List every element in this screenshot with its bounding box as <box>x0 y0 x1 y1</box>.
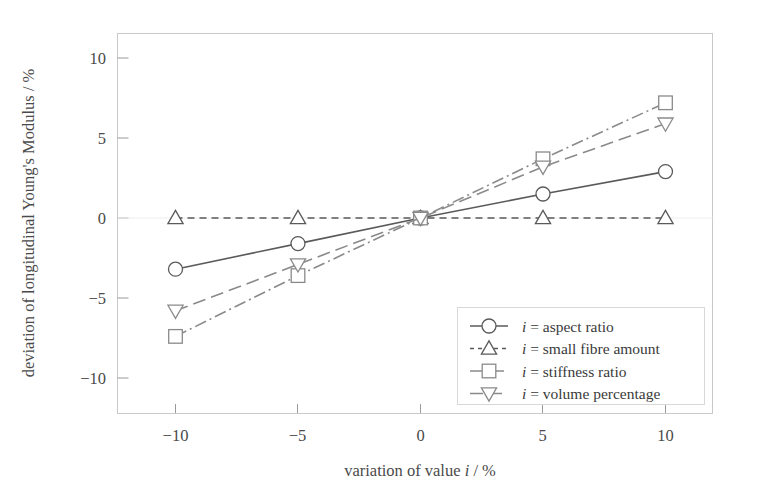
circle-marker <box>536 187 550 201</box>
triangle-up-marker <box>290 210 305 223</box>
series-layer <box>168 96 673 343</box>
chart-figure: 10 5 0 −5 −10 −10 −5 0 5 10 deviation of… <box>0 0 762 495</box>
legend-label-text: = volume percentage <box>526 385 660 402</box>
square-marker <box>659 96 673 110</box>
legend-item-2[interactable]: i = stiffness ratio <box>470 363 627 380</box>
y-axis-title: deviation of longitudinal Young's Modulu… <box>19 68 38 377</box>
legend-label-text: = small fibre amount <box>526 340 660 357</box>
square-marker <box>482 364 496 378</box>
legend-label: i = aspect ratio <box>522 318 614 335</box>
legend-label-text: = aspect ratio <box>526 318 614 335</box>
triangle-down-marker <box>168 305 183 318</box>
line-chart: 10 5 0 −5 −10 −10 −5 0 5 10 deviation of… <box>0 0 762 495</box>
x-tick-label: 10 <box>657 426 674 445</box>
x-tick-label: −10 <box>163 426 189 445</box>
triangle-up-marker <box>535 210 550 223</box>
triangle-up-marker <box>168 210 183 223</box>
y-tick-label: 0 <box>98 209 106 228</box>
triangle-down-marker <box>535 161 550 174</box>
y-tick-label: 5 <box>98 129 106 148</box>
x-axis-title-pre: variation of value <box>344 461 465 480</box>
x-tick-label: 5 <box>538 426 546 445</box>
y-tick-label: −10 <box>80 369 106 388</box>
square-marker <box>169 330 183 344</box>
y-tick-label: −5 <box>88 289 106 308</box>
x-axis-ticks <box>176 404 666 413</box>
legend-label: i = volume percentage <box>522 385 660 402</box>
y-tick-label: 10 <box>90 49 107 68</box>
circle-marker <box>482 319 496 333</box>
legend-item-0[interactable]: i = aspect ratio <box>470 318 614 335</box>
triangle-down-marker <box>658 118 673 131</box>
legend-label-text: = stiffness ratio <box>526 363 626 380</box>
x-axis-title-post: / % <box>469 461 496 480</box>
legend: i = aspect ratioi = small fibre amounti … <box>458 308 705 405</box>
legend-label: i = small fibre amount <box>522 340 661 357</box>
x-axis-title: variation of value i / % <box>344 461 496 480</box>
circle-marker <box>291 237 305 251</box>
circle-marker <box>169 262 183 276</box>
triangle-up-marker <box>658 210 673 223</box>
legend-label: i = stiffness ratio <box>522 363 627 380</box>
x-tick-label: 0 <box>416 426 424 445</box>
circle-marker <box>659 165 673 179</box>
x-tick-label: −5 <box>289 426 307 445</box>
